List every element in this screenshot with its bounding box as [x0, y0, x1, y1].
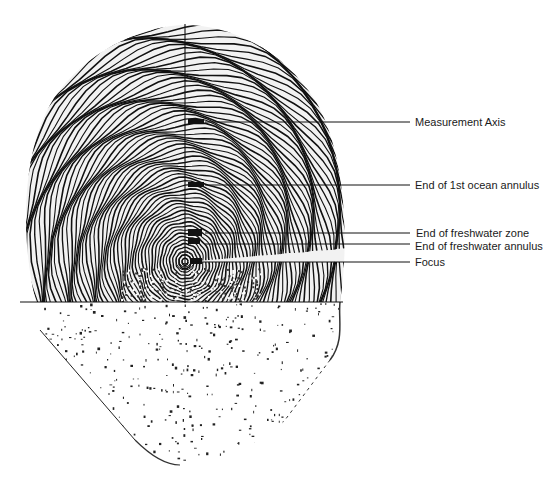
embedded-region	[0, 300, 555, 488]
label-end-1st-ocean-annulus: End of 1st ocean annulus	[415, 179, 539, 191]
label-focus: Focus	[415, 256, 445, 268]
label-end-freshwater-annulus: End of freshwater annulus	[415, 240, 543, 252]
label-measurement-axis: Measurement Axis	[415, 116, 505, 128]
label-end-freshwater-zone: End of freshwater zone	[416, 227, 529, 239]
